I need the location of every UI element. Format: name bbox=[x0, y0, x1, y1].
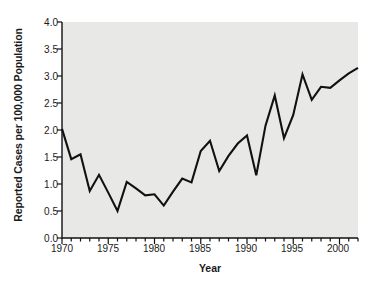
plot-background bbox=[62, 22, 358, 238]
chart-figure: Reported Cases per 100,000 Population Ye… bbox=[0, 0, 378, 284]
plot-area bbox=[0, 0, 378, 284]
